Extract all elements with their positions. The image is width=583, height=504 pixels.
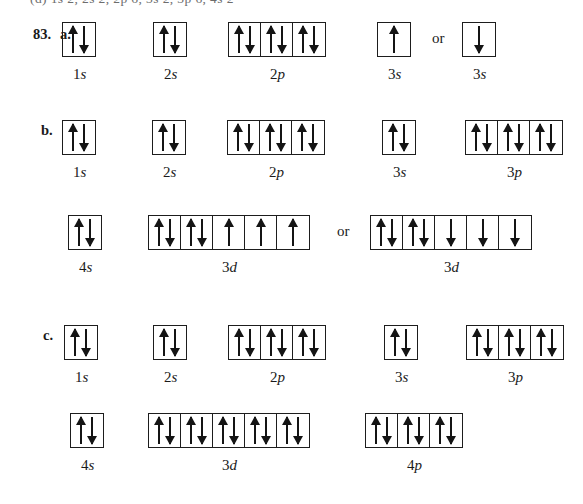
arrow-head bbox=[265, 123, 275, 132]
orbital-label: 2s bbox=[152, 164, 187, 181]
orbital-label: 2p bbox=[228, 66, 327, 83]
electron-arrow-up bbox=[435, 417, 446, 444]
electron-arrow-up bbox=[218, 417, 229, 444]
arrow-head bbox=[510, 238, 520, 247]
arrow-head bbox=[288, 218, 298, 227]
orbital-label-n: 3 bbox=[222, 259, 230, 275]
arrow-head bbox=[154, 218, 164, 227]
arrow-head bbox=[401, 348, 411, 357]
orbital-box bbox=[293, 23, 325, 56]
arrow-head bbox=[197, 436, 207, 445]
electron-arrow-up bbox=[390, 329, 401, 356]
arrow-head bbox=[186, 416, 196, 425]
electron-arrow-down bbox=[309, 329, 320, 356]
orbital-label-subshell: s bbox=[395, 66, 401, 82]
orbital-label-subshell: d bbox=[452, 259, 460, 275]
arrow-head bbox=[244, 143, 254, 152]
orbital-box bbox=[245, 414, 277, 447]
orbital-label: 2p bbox=[228, 369, 327, 386]
electron-arrow-down bbox=[387, 219, 398, 246]
orbital-label-n: 3 bbox=[444, 259, 452, 275]
electron-arrow-up bbox=[266, 329, 277, 356]
electron-arrow-down bbox=[474, 26, 485, 53]
arrow-head bbox=[70, 328, 80, 337]
arrow-head bbox=[387, 238, 397, 247]
arrow-head bbox=[169, 143, 179, 152]
arrow-head bbox=[68, 123, 78, 132]
arrow-head bbox=[81, 348, 91, 357]
electron-arrow-down bbox=[446, 417, 457, 444]
arrow-head bbox=[229, 436, 239, 445]
electron-arrow-up bbox=[74, 219, 85, 246]
orbital-label: 3s bbox=[384, 369, 419, 386]
orbital-label: 2s bbox=[153, 66, 188, 83]
orbital-label-subshell: p bbox=[415, 457, 423, 473]
electron-arrow-down bbox=[308, 124, 319, 151]
orbital-box bbox=[181, 216, 213, 249]
orbital-box bbox=[181, 414, 213, 447]
electron-arrow-down bbox=[419, 219, 430, 246]
arrow-head bbox=[376, 218, 386, 227]
electron-arrow-up bbox=[388, 124, 399, 151]
electron-arrow-down bbox=[293, 417, 304, 444]
arrow-head bbox=[197, 238, 207, 247]
electron-arrow-down bbox=[244, 124, 255, 151]
orbital-box bbox=[499, 326, 531, 359]
arrow-head bbox=[535, 123, 545, 132]
electron-arrow-up bbox=[76, 417, 87, 444]
orbital-group-4s bbox=[68, 215, 102, 250]
orbital-label: 3d bbox=[148, 259, 311, 276]
electron-arrow-down bbox=[546, 124, 557, 151]
electron-arrow-up bbox=[389, 26, 400, 53]
orbital-label-subshell: d bbox=[230, 259, 238, 275]
orbital-group-2s bbox=[153, 22, 187, 57]
arrow-head bbox=[158, 123, 168, 132]
arrow-head bbox=[256, 218, 266, 227]
orbital-label-n: 3 bbox=[508, 369, 516, 385]
orbital-box bbox=[63, 121, 95, 154]
arrow-head bbox=[76, 416, 86, 425]
orbital-label: 2s bbox=[153, 369, 188, 386]
orbital-label: 3s bbox=[462, 66, 497, 83]
orbital-label-subshell: s bbox=[171, 66, 177, 82]
arrow-head bbox=[435, 416, 445, 425]
orbital-box bbox=[261, 23, 293, 56]
electron-arrow-up bbox=[224, 219, 235, 246]
electron-arrow-up bbox=[408, 219, 419, 246]
arrow-head bbox=[79, 45, 89, 54]
orbital-label-subshell: p bbox=[278, 369, 286, 385]
orbital-box bbox=[154, 23, 186, 56]
orbital-box bbox=[277, 216, 309, 249]
arrow-head bbox=[159, 25, 169, 34]
arrow-head bbox=[170, 348, 180, 357]
orbital-label-subshell: s bbox=[88, 457, 94, 473]
arrow-head bbox=[390, 328, 400, 337]
orbital-label: 4s bbox=[70, 457, 105, 474]
orbital-box bbox=[430, 414, 462, 447]
orbital-group-2p bbox=[227, 120, 325, 155]
orbital-box bbox=[293, 326, 325, 359]
part-letter-b: b. bbox=[41, 122, 53, 139]
electron-arrow-down bbox=[261, 417, 272, 444]
electron-arrow-down bbox=[482, 124, 493, 151]
orbital-box bbox=[292, 121, 324, 154]
orbital-group-3s bbox=[377, 22, 411, 57]
electron-arrow-up bbox=[298, 26, 309, 53]
arrow-head bbox=[515, 348, 525, 357]
orbital-label-n: 3 bbox=[507, 164, 515, 180]
electron-arrow-down bbox=[79, 26, 90, 53]
electron-arrow-up bbox=[233, 124, 244, 151]
electron-arrow-up bbox=[186, 219, 197, 246]
electron-arrow-up bbox=[250, 417, 261, 444]
orbital-label: 4p bbox=[365, 457, 464, 474]
orbital-label: 3d bbox=[370, 259, 533, 276]
electron-arrow-down bbox=[245, 26, 256, 53]
arrow-head bbox=[266, 25, 276, 34]
electron-arrow-up bbox=[256, 219, 267, 246]
orbital-group-3p bbox=[465, 120, 563, 155]
arrow-head bbox=[293, 436, 303, 445]
arrow-head bbox=[266, 328, 276, 337]
orbital-box bbox=[213, 216, 245, 249]
arrow-head bbox=[419, 238, 429, 247]
electron-arrow-down bbox=[515, 329, 526, 356]
